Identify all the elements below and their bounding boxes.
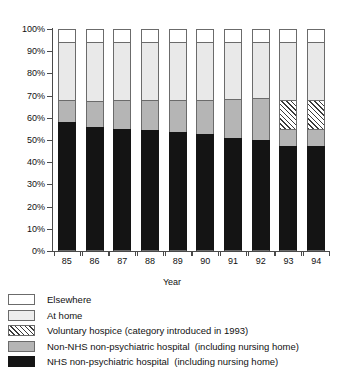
bar-segment-else — [113, 29, 131, 42]
x-axis-tick-label: 88 — [141, 256, 159, 266]
y-axis-labels: 0%10%20%30%40%50%60%70%80%90%100% — [0, 0, 48, 300]
bar-segment-nhs — [224, 138, 242, 251]
bar-93 — [279, 29, 297, 251]
legend-item[interactable]: Elsewhere — [8, 292, 344, 308]
y-axis-tick — [47, 207, 52, 208]
bar-segment-nonnhs — [307, 129, 325, 146]
y-axis-tick — [47, 51, 52, 52]
bar-segment-else — [252, 29, 270, 42]
bar-segment-nhs — [58, 122, 76, 251]
bar-segment-nonnhs — [279, 129, 297, 146]
legend-swatch-icon — [8, 356, 35, 367]
y-axis-tick — [47, 73, 52, 74]
bar-segment-nhs — [252, 140, 270, 251]
bar-segment-else — [141, 29, 159, 42]
y-axis-tick-label: 0% — [32, 246, 45, 256]
bar-segment-nhs — [169, 132, 187, 251]
bar-segment-home — [58, 42, 76, 100]
bar-segment-else — [224, 29, 242, 42]
y-axis-tick-label: 10% — [27, 224, 45, 234]
x-axis-tick-label: 91 — [224, 256, 242, 266]
bar-segment-hospice — [279, 100, 297, 129]
bar-segment-nonnhs — [58, 100, 76, 122]
x-axis-tick-label: 86 — [86, 256, 104, 266]
legend-swatch-icon — [8, 325, 35, 336]
bar-segment-nhs — [86, 127, 104, 251]
bar-segment-nhs — [196, 134, 214, 251]
x-axis-tick-label: 92 — [252, 256, 270, 266]
y-axis-tick — [47, 184, 52, 185]
bar-segment-nonnhs — [252, 98, 270, 140]
bar-90 — [196, 29, 214, 251]
plot-area: 0%10%20%30%40%50%60%70%80%90%100% 858687… — [0, 0, 344, 300]
y-axis-tick — [47, 251, 52, 252]
legend-label: Voluntary hospice (category introduced i… — [47, 325, 248, 336]
y-axis-tick-label: 70% — [27, 91, 45, 101]
bar-segment-home — [224, 42, 242, 99]
bar-segment-hospice — [307, 100, 325, 129]
x-axis-tick-label: 85 — [58, 256, 76, 266]
bar-segment-else — [86, 29, 104, 42]
bar-segment-nonnhs — [141, 100, 159, 130]
bar-segment-nonnhs — [196, 100, 214, 134]
legend-item[interactable]: Voluntary hospice (category introduced i… — [8, 323, 344, 339]
bar-segment-nonnhs — [86, 101, 104, 127]
y-axis-tick-label: 60% — [27, 113, 45, 123]
x-axis-tick-label: 87 — [113, 256, 131, 266]
y-axis-tick — [47, 140, 52, 141]
bar-86 — [86, 29, 104, 251]
bar-segment-else — [279, 29, 297, 42]
bar-segment-nhs — [141, 130, 159, 251]
legend-label: At home — [47, 310, 82, 321]
bar-segment-nonnhs — [169, 100, 187, 132]
x-axis-tick-label: 94 — [307, 256, 325, 266]
y-axis-tick-label: 40% — [27, 157, 45, 167]
bar-91 — [224, 29, 242, 251]
y-axis-tick-label: 90% — [27, 46, 45, 56]
legend-swatch-icon — [8, 310, 35, 321]
y-axis-tick — [47, 229, 52, 230]
y-axis-tick — [47, 96, 52, 97]
legend-label: NHS non-psychiatric hospital (including … — [47, 356, 278, 367]
bar-segment-home — [86, 42, 104, 101]
legend-item[interactable]: At home — [8, 308, 344, 324]
bar-segment-else — [196, 29, 214, 42]
bar-segment-home — [307, 42, 325, 100]
legend-label: Non-NHS non-psychiatric hospital (includ… — [47, 341, 299, 352]
bar-segment-else — [307, 29, 325, 42]
x-axis-tick-label: 89 — [169, 256, 187, 266]
bar-segment-else — [58, 29, 76, 42]
legend-swatch-icon — [8, 341, 35, 352]
legend-item[interactable]: NHS non-psychiatric hospital (including … — [8, 354, 344, 370]
bar-segment-home — [196, 42, 214, 100]
stacked-bar-chart: 0%10%20%30%40%50%60%70%80%90%100% 858687… — [0, 0, 344, 371]
bar-segment-nonnhs — [113, 100, 131, 129]
bars-container — [53, 29, 330, 251]
y-axis-tick-label: 80% — [27, 68, 45, 78]
bar-85 — [58, 29, 76, 251]
x-axis-tick-label: 90 — [196, 256, 214, 266]
bar-89 — [169, 29, 187, 251]
y-axis-tick-label: 20% — [27, 202, 45, 212]
bar-segment-else — [169, 29, 187, 42]
bar-segment-nonnhs — [224, 99, 242, 138]
legend-item[interactable]: Non-NHS non-psychiatric hospital (includ… — [8, 339, 344, 355]
y-axis-tick — [47, 162, 52, 163]
chart-legend: ElsewhereAt homeVoluntary hospice (categ… — [8, 292, 344, 370]
y-axis-tick-label: 50% — [27, 135, 45, 145]
legend-swatch-icon — [8, 294, 35, 305]
bar-segment-nhs — [113, 129, 131, 251]
bar-94 — [307, 29, 325, 251]
bar-segment-home — [279, 42, 297, 100]
y-axis-tick-label: 30% — [27, 179, 45, 189]
bar-segment-nhs — [279, 146, 297, 251]
y-axis-tick — [47, 118, 52, 119]
x-axis-tick-label: 93 — [279, 256, 297, 266]
bar-segment-home — [113, 42, 131, 100]
bar-segment-nhs — [307, 146, 325, 251]
y-axis-tick — [47, 29, 52, 30]
bar-segment-home — [141, 42, 159, 100]
x-axis-title: Year — [0, 277, 344, 287]
bar-92 — [252, 29, 270, 251]
legend-label: Elsewhere — [47, 294, 91, 305]
